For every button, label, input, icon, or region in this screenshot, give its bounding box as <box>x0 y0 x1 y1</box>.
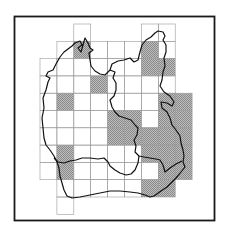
grid-cell <box>74 59 91 76</box>
grid-cell <box>57 197 74 214</box>
grid-cell-shaded <box>175 128 192 145</box>
grid-cell <box>74 111 91 128</box>
grid-cell <box>40 162 57 179</box>
grid-cell <box>40 93 57 110</box>
grid-cell <box>108 41 125 58</box>
grid-cell-shaded <box>141 41 158 58</box>
grid-cell <box>108 59 125 76</box>
grid-cell <box>125 162 142 179</box>
grid-cell <box>141 111 158 128</box>
grid-cell <box>91 93 108 110</box>
grid-cell <box>57 111 74 128</box>
grid-cell <box>141 162 158 179</box>
grid-cell-shaded <box>57 93 74 110</box>
grid-cell-shaded <box>57 145 74 162</box>
grid-cell <box>91 162 108 179</box>
grid-cell <box>40 76 57 93</box>
grid-cell <box>158 41 175 58</box>
grid-cell-shaded <box>175 111 192 128</box>
grid-cell <box>125 76 142 93</box>
grid-cell <box>57 41 74 58</box>
grid-cell <box>91 111 108 128</box>
grid-cell-shaded <box>125 128 142 145</box>
grid-cell <box>91 128 108 145</box>
grid-cell <box>74 76 91 93</box>
grid-cell-shaded <box>158 59 175 76</box>
grid-cell-shaded <box>158 145 175 162</box>
grid-cell-shaded <box>91 76 108 93</box>
grid-cell <box>74 128 91 145</box>
grid-cell <box>141 93 158 110</box>
grid-cell <box>57 128 74 145</box>
grid-cell <box>158 24 175 41</box>
grid-cell <box>141 76 158 93</box>
grid-cell <box>74 162 91 179</box>
grid-cell <box>108 145 125 162</box>
grid-cell-shaded <box>141 128 158 145</box>
grid-cell-shaded <box>175 93 192 110</box>
grid-cell-shaded <box>108 128 125 145</box>
grid-cell <box>74 180 91 197</box>
grid-cell <box>57 76 74 93</box>
grid-cell <box>125 180 142 197</box>
grid-cell <box>74 24 91 41</box>
grid-cell <box>74 93 91 110</box>
grid-cell <box>40 128 57 145</box>
distribution-map <box>0 0 227 236</box>
grid-cell-shaded <box>158 180 175 197</box>
grid-cell <box>57 59 74 76</box>
grid-cell <box>57 180 74 197</box>
grid-cell-shaded <box>158 128 175 145</box>
grid-cell-shaded <box>141 59 158 76</box>
grid-cell <box>108 180 125 197</box>
grid-cell <box>125 93 142 110</box>
grid-cell-shaded <box>141 145 158 162</box>
